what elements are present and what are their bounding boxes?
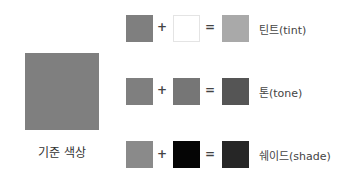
tint-base-swatch (126, 15, 153, 42)
plus-sign: + (157, 147, 167, 161)
equals-sign: = (205, 147, 215, 161)
plus-sign: + (157, 83, 167, 97)
shade-result-swatch (222, 141, 249, 168)
tint-label: 틴트(tint) (259, 21, 306, 37)
tone-label: 톤(tone) (259, 84, 302, 100)
equals-sign: = (205, 20, 215, 34)
base-color-label: 기준 색상 (22, 143, 102, 160)
shade-label: 쉐이드(shade) (259, 147, 331, 163)
tone-result-swatch (222, 78, 249, 105)
plus-sign: + (157, 20, 167, 34)
tone-base-swatch (126, 78, 153, 105)
shade-base-swatch (126, 141, 153, 168)
tone-gray-swatch (173, 78, 200, 105)
shade-black-swatch (173, 141, 200, 168)
equals-sign: = (205, 83, 215, 97)
base-color-swatch (25, 53, 99, 130)
tint-result-swatch (222, 15, 249, 42)
tint-white-swatch (173, 15, 200, 42)
